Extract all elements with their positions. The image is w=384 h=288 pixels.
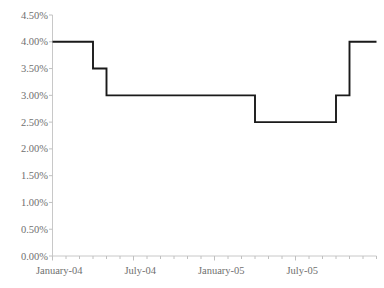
y-axis-group xyxy=(49,15,53,256)
x-axis-group xyxy=(53,256,377,261)
y-axis-tick-marks xyxy=(49,15,53,256)
x-axis-tick-marks xyxy=(53,256,377,261)
chart-container: 4.50%4.00%3.50%3.00%2.50%2.00%1.50%1.00%… xyxy=(0,0,384,288)
chart-plot-area xyxy=(0,0,384,288)
rate-step-line xyxy=(53,42,377,122)
